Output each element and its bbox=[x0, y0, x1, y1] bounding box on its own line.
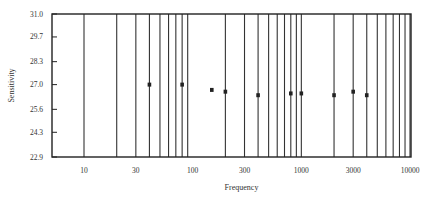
data-point-marker bbox=[210, 88, 214, 92]
data-point-marker bbox=[332, 93, 336, 97]
y-axis-label: Sensitivity bbox=[7, 68, 16, 102]
x-axis-ticks: 10301003001000300010000 bbox=[80, 166, 419, 175]
y-axis-ticks: 31.029.728.327.025.624.322.9 bbox=[30, 10, 57, 162]
x-tick-label: 3000 bbox=[346, 166, 361, 175]
y-tick-label: 29.7 bbox=[30, 32, 43, 41]
y-tick-label: 28.3 bbox=[30, 57, 43, 66]
y-tick-label: 22.9 bbox=[30, 153, 43, 162]
plot-frame bbox=[52, 14, 411, 157]
y-tick-label: 27.0 bbox=[30, 80, 43, 89]
data-point-marker bbox=[224, 90, 228, 94]
data-point-marker bbox=[180, 83, 184, 87]
x-tick-label: 100 bbox=[187, 166, 199, 175]
data-point-marker bbox=[148, 83, 152, 87]
data-point-marker bbox=[289, 91, 293, 95]
x-tick-label: 30 bbox=[132, 166, 140, 175]
x-tick-label: 10000 bbox=[401, 166, 420, 175]
y-tick-label: 25.6 bbox=[30, 105, 43, 114]
x-tick-label: 10 bbox=[80, 166, 88, 175]
x-tick-label: 300 bbox=[239, 166, 251, 175]
y-tick-label: 31.0 bbox=[30, 10, 43, 19]
data-point-marker bbox=[300, 91, 304, 95]
data-point-marker bbox=[365, 93, 369, 97]
vertical-gridlines bbox=[84, 14, 410, 157]
y-tick-label: 24.3 bbox=[30, 128, 43, 137]
x-tick-label: 1000 bbox=[294, 166, 309, 175]
data-point-marker bbox=[256, 93, 260, 97]
x-axis-label: Frequency bbox=[225, 183, 259, 192]
data-point-marker bbox=[351, 90, 355, 94]
sensitivity-frequency-chart: 31.029.728.327.025.624.322.9 10301003001… bbox=[0, 0, 428, 199]
